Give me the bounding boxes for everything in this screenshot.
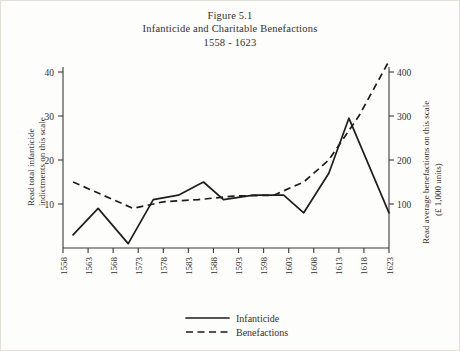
x-tick-label-1583: 1583: [184, 257, 194, 276]
series-path-benefactions: [73, 61, 389, 208]
x-tick-label-1598: 1598: [259, 257, 269, 276]
x-tick-label-1588: 1588: [209, 257, 219, 276]
x-tick-label-1608: 1608: [309, 257, 319, 276]
x-tick-label-1623: 1623: [385, 257, 395, 276]
legend-entry-infanticide: Infanticide: [186, 313, 280, 324]
x-axis-tick-labels: 1558156315681573157815831588159315981603…: [59, 257, 395, 276]
left-tick-label-40: 40: [45, 68, 55, 78]
chart-canvas: 10203040 100200300400 155815631568157315…: [1, 1, 460, 351]
left-axis: 10203040: [45, 67, 64, 248]
right-axis: 100200300400: [389, 67, 412, 248]
x-axis-ticks: [63, 248, 389, 253]
x-tick-label-1593: 1593: [234, 257, 244, 276]
series-path-infanticide: [73, 118, 389, 243]
x-tick-label-1618: 1618: [359, 257, 369, 276]
right-tick-label-200: 200: [397, 156, 412, 166]
left-axis-title-line-2: indictments on this scale: [37, 117, 47, 206]
x-tick-label-1603: 1603: [284, 257, 294, 276]
right-tick-label-300: 300: [397, 112, 412, 122]
right-axis-title-line-2: (£ 1,000 units): [433, 163, 443, 216]
legend: Infanticide Benefactions: [186, 313, 288, 338]
left-axis-ticks: [58, 72, 63, 204]
left-axis-title-line-1: Read total infanticide: [26, 129, 36, 206]
right-tick-label-400: 400: [397, 68, 412, 78]
figure-container: Figure 5.1 Infanticide and Charitable Be…: [0, 0, 460, 351]
x-tick-label-1563: 1563: [84, 257, 94, 276]
left-axis-title: Read total infanticide indictments on th…: [26, 117, 47, 206]
x-tick-label-1613: 1613: [334, 257, 344, 276]
right-axis-ticks: [389, 72, 394, 204]
right-axis-title: Read average benefactions on this scale …: [421, 101, 443, 244]
series-group: [73, 61, 389, 244]
legend-label-infanticide: Infanticide: [236, 313, 280, 324]
x-tick-label-1568: 1568: [109, 257, 119, 276]
right-axis-tick-labels: 100200300400: [397, 68, 412, 210]
right-axis-title-line-1: Read average benefactions on this scale: [421, 101, 431, 244]
legend-label-benefactions: Benefactions: [236, 327, 288, 338]
x-tick-label-1558: 1558: [59, 257, 69, 276]
x-axis: 1558156315681573157815831588159315981603…: [59, 248, 395, 275]
legend-entry-benefactions: Benefactions: [186, 327, 288, 338]
x-tick-label-1573: 1573: [134, 257, 144, 276]
right-tick-label-100: 100: [397, 200, 412, 210]
x-tick-label-1578: 1578: [159, 257, 169, 276]
